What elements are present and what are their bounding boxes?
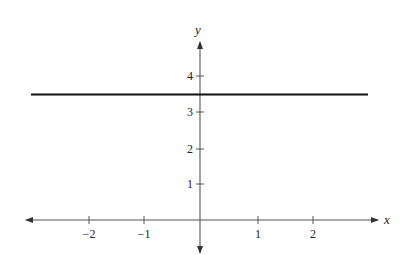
y-tick-label: 3 — [187, 105, 193, 119]
y-axis: 1 2 3 4 y — [187, 22, 204, 253]
chart: −2 −1 1 2 x 1 2 3 4 y — [0, 0, 417, 267]
x-tick-label: 2 — [310, 227, 316, 241]
x-axis-label: x — [383, 212, 390, 227]
x-tick-label: 1 — [255, 227, 261, 241]
x-axis: −2 −1 1 2 x — [26, 212, 390, 241]
y-tick-label: 1 — [187, 177, 193, 191]
y-tick-label: 2 — [187, 142, 193, 156]
x-tick-label: −1 — [138, 227, 151, 241]
y-axis-label: y — [193, 22, 201, 37]
y-tick-label: 4 — [187, 69, 193, 83]
x-tick-label: −2 — [83, 227, 96, 241]
